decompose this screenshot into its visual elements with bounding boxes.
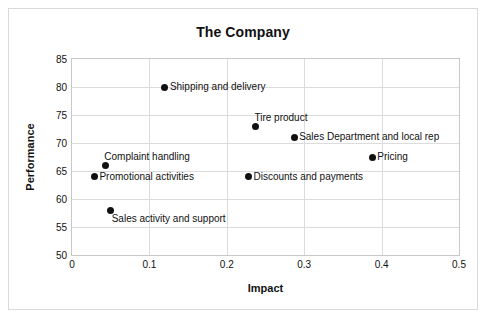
data-point[interactable]: [369, 154, 376, 161]
x-tick-label: 0.2: [220, 259, 234, 270]
x-tick-label: 0.1: [142, 259, 156, 270]
data-point-label: Tire product: [254, 112, 307, 123]
data-point-label: Pricing: [377, 151, 408, 162]
y-tick-label: 75: [56, 110, 67, 121]
x-tick-label: 0: [69, 259, 75, 270]
x-tick-label: 0.5: [452, 259, 466, 270]
y-tick-label: 55: [56, 222, 67, 233]
x-tick-label: 0.3: [297, 259, 311, 270]
y-tick-label: 50: [56, 250, 67, 261]
x-axis-title: Impact: [71, 282, 460, 294]
data-point[interactable]: [91, 173, 98, 180]
plot-area: 505560657075808500.10.20.30.40.5Shipping…: [71, 58, 460, 256]
data-point-label: Sales Department and local rep: [299, 131, 439, 142]
data-point[interactable]: [252, 123, 259, 130]
y-gridline: [72, 199, 459, 200]
data-point-label: Discounts and payments: [253, 171, 363, 182]
data-point[interactable]: [102, 162, 109, 169]
y-tick-label: 70: [56, 138, 67, 149]
data-point[interactable]: [245, 173, 252, 180]
y-tick-label: 85: [56, 54, 67, 65]
data-point[interactable]: [291, 134, 298, 141]
y-tick-label: 65: [56, 166, 67, 177]
x-gridline: [304, 59, 305, 255]
y-gridline: [72, 87, 459, 88]
y-gridline: [72, 227, 459, 228]
data-point-label: Sales activity and support: [112, 213, 226, 224]
y-axis-title-text: Performance: [24, 123, 36, 190]
data-point-label: Promotional activities: [99, 171, 193, 182]
y-tick-label: 60: [56, 194, 67, 205]
chart-container: The Company Performance 5055606570758085…: [8, 8, 478, 310]
y-axis-title: Performance: [23, 58, 37, 256]
data-point-label: Shipping and delivery: [170, 81, 266, 92]
y-gridline: [72, 143, 459, 144]
data-point-label: Complaint handling: [104, 151, 190, 162]
chart-title: The Company: [9, 24, 477, 40]
y-tick-label: 80: [56, 82, 67, 93]
data-point[interactable]: [161, 84, 168, 91]
x-tick-label: 0.4: [375, 259, 389, 270]
